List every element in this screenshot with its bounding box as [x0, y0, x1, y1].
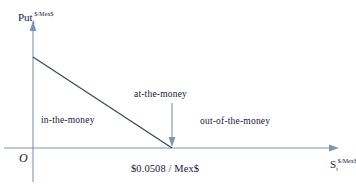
at-the-money-pointer-arrow-icon	[169, 137, 176, 147]
at-the-money-label: at-the-money	[134, 90, 187, 100]
origin-label: O	[19, 152, 28, 164]
y-axis-label: Putt$/Mex$	[18, 11, 54, 25]
in-the-money-label: in-the-money	[41, 116, 95, 126]
y-axis-label-subscript: t	[33, 19, 35, 25]
out-of-the-money-label: out-of-the-money	[200, 117, 270, 127]
x-axis-arrow-icon	[329, 145, 339, 152]
x-axis-label-subscript: t	[336, 166, 338, 172]
x-axis-label: St$/Mex$	[330, 158, 356, 172]
y-axis-label-base: Put	[18, 11, 33, 23]
payoff-line-sloped	[33, 57, 172, 148]
y-axis-label-superscript: $/Mex$	[34, 11, 53, 17]
strike-value-label: $0.0508 / Mex$	[131, 164, 199, 175]
x-axis-label-superscript: $/Mex$	[338, 158, 356, 164]
put-option-payoff-figure: Putt$/Mex$ St$/Mex$ O in-the-money at-th…	[0, 0, 356, 190]
